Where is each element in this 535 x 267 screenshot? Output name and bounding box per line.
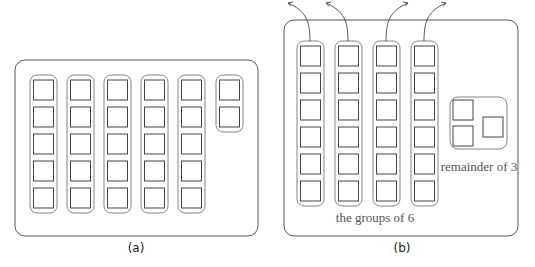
- unit-box: [377, 181, 397, 201]
- arrow-out-1: [288, 3, 310, 41]
- caption-b: (b): [394, 241, 411, 255]
- unit-box: [34, 134, 54, 154]
- unit-box: [34, 161, 54, 181]
- unit-box: [415, 46, 435, 66]
- unit-box: [415, 100, 435, 120]
- unit-box: [377, 46, 397, 66]
- unit-box: [34, 188, 54, 208]
- unit-box: [301, 181, 321, 201]
- unit-box: [145, 134, 165, 154]
- unit-box: [71, 107, 91, 127]
- unit-box: [145, 80, 165, 100]
- unit-box: [339, 73, 359, 93]
- unit-box: [415, 127, 435, 147]
- panel-b: [284, 2, 518, 236]
- arrow-out-3: [386, 3, 408, 41]
- unit-box: [301, 73, 321, 93]
- unit-box: [339, 154, 359, 174]
- unit-box: [145, 161, 165, 181]
- unit-box: [34, 107, 54, 127]
- unit-box: [415, 181, 435, 201]
- unit-box: [108, 80, 128, 100]
- unit-box: [415, 73, 435, 93]
- unit-box: [301, 100, 321, 120]
- unit-box: [71, 161, 91, 181]
- unit-box: [453, 126, 473, 146]
- groups-of-6-label: the groups of 6: [336, 210, 415, 225]
- unit-box: [483, 117, 503, 137]
- division-grouping-diagram: (a) (b) the groups of 6 remainder of 3: [0, 0, 535, 267]
- unit-box: [301, 127, 321, 147]
- unit-box: [108, 107, 128, 127]
- unit-box: [71, 134, 91, 154]
- unit-box: [415, 154, 435, 174]
- unit-box: [377, 154, 397, 174]
- unit-box: [182, 188, 202, 208]
- unit-box: [339, 100, 359, 120]
- caption-a: (a): [128, 241, 145, 255]
- unit-box: [377, 73, 397, 93]
- arrow-out-2: [326, 3, 348, 41]
- unit-box: [108, 161, 128, 181]
- unit-box: [301, 46, 321, 66]
- unit-box: [301, 154, 321, 174]
- unit-box: [108, 188, 128, 208]
- remainder-label: remainder of 3: [441, 159, 518, 174]
- panel-a: [15, 60, 258, 236]
- unit-box: [377, 100, 397, 120]
- unit-box: [71, 80, 91, 100]
- unit-box: [182, 134, 202, 154]
- unit-box: [182, 107, 202, 127]
- unit-box: [339, 46, 359, 66]
- unit-box: [220, 80, 240, 100]
- unit-box: [220, 107, 240, 127]
- unit-box: [71, 188, 91, 208]
- unit-box: [339, 127, 359, 147]
- unit-box: [108, 134, 128, 154]
- unit-box: [453, 100, 473, 120]
- unit-box: [377, 127, 397, 147]
- unit-box: [145, 107, 165, 127]
- unit-box: [182, 161, 202, 181]
- unit-box: [145, 188, 165, 208]
- unit-box: [339, 181, 359, 201]
- unit-box: [182, 80, 202, 100]
- unit-box: [34, 80, 54, 100]
- arrow-out-4: [424, 3, 446, 41]
